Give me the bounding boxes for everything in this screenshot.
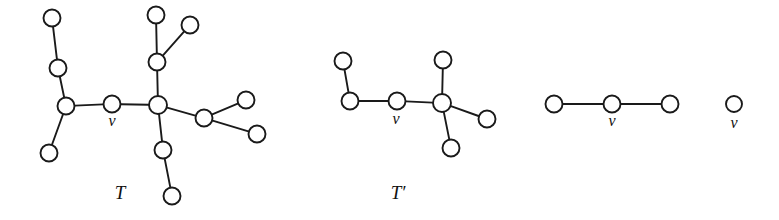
graph-edge (406, 101, 433, 102)
graph-edge (53, 27, 57, 59)
vertex-label-v: v (392, 110, 400, 127)
graph-edge (213, 121, 249, 132)
graph-node (196, 110, 213, 127)
graph-edge (60, 77, 64, 97)
graph-edge (121, 104, 149, 105)
figure-canvas: vTvT′vv (0, 0, 779, 220)
graph-node (335, 53, 352, 70)
graph-edge (442, 69, 443, 94)
node-group (726, 96, 742, 112)
graph-edge (75, 104, 103, 105)
graph-edge (156, 24, 157, 53)
graph-node (433, 94, 451, 112)
graph-edge (157, 71, 158, 96)
vertex-label-v: v (730, 114, 738, 131)
graph-edge (444, 112, 449, 139)
panel-single: v (726, 96, 742, 131)
graph-node (546, 96, 563, 113)
graph-edge (345, 70, 349, 92)
graph-edge (167, 108, 195, 116)
graph-node (726, 96, 742, 112)
graph-edge (159, 114, 162, 141)
graph-node (342, 93, 359, 110)
graph-node (44, 10, 61, 27)
graph-edge (163, 32, 184, 56)
vertex-label-v: v (608, 112, 616, 129)
panel-caption: T′ (391, 182, 407, 203)
graph-node (238, 92, 255, 109)
graph-node (149, 96, 167, 114)
tree-decomposition-figure: vTvT′vv (0, 0, 779, 220)
graph-node (435, 52, 452, 69)
graph-node (58, 98, 75, 115)
graph-node (662, 96, 679, 113)
graph-node (479, 111, 496, 128)
graph-node (249, 126, 266, 143)
vertex-label-v: v (108, 112, 116, 129)
graph-edge (165, 159, 171, 187)
panel-caption: T (115, 182, 127, 203)
panel-T: vT (41, 7, 266, 205)
graph-node (164, 188, 181, 205)
graph-node (389, 93, 406, 110)
graph-node (104, 96, 121, 113)
edge-group (345, 69, 479, 139)
graph-edge (52, 114, 63, 144)
graph-node (149, 54, 166, 71)
graph-node (155, 142, 172, 159)
graph-edge (212, 104, 237, 115)
graph-node (604, 96, 621, 113)
panel-path: v (546, 96, 679, 130)
graph-node (148, 7, 165, 24)
node-group (335, 52, 496, 157)
panel-Tprime: vT′ (335, 52, 496, 204)
graph-edge (451, 106, 479, 116)
graph-node (50, 60, 67, 77)
graph-node (182, 17, 199, 34)
graph-node (41, 145, 58, 162)
graph-node (443, 140, 460, 157)
